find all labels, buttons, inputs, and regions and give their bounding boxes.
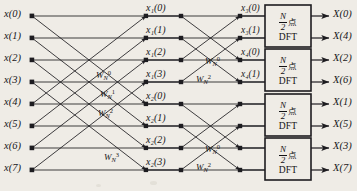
scan-speck bbox=[150, 181, 157, 185]
dft-block-3-fraction: N 2 bbox=[279, 145, 287, 165]
output-label-7: X(7) bbox=[333, 163, 352, 174]
input-label-6: x(6) bbox=[4, 141, 21, 152]
scan-speck bbox=[96, 184, 101, 187]
input-label-0: x(0) bbox=[4, 9, 21, 20]
input-label-7: x(7) bbox=[4, 163, 21, 174]
dft-block-0-fraction: N 2 bbox=[279, 12, 287, 32]
output-label-6: X(3) bbox=[333, 141, 352, 152]
input-label-1: x(1) bbox=[4, 31, 21, 42]
input-label-2: x(2) bbox=[4, 53, 21, 64]
input-label-4: x(4) bbox=[4, 97, 21, 108]
dft-block-2-text: N 2 点 DFT bbox=[265, 101, 311, 132]
dft-block-1-fraction: N 2 bbox=[279, 56, 287, 76]
input-label-3: x(3) bbox=[4, 75, 21, 86]
twiddle-stage1-3: WN3 bbox=[104, 152, 119, 163]
twiddle-stage1-0: WN0 bbox=[96, 70, 111, 81]
stage1-label-2: x₁(2) bbox=[146, 47, 166, 57]
stage2-label-3: x₄(1) bbox=[241, 70, 260, 80]
twiddle-stage2-3: WN2 bbox=[196, 162, 211, 173]
dft-block-3-text: N 2 点 DFT bbox=[265, 145, 311, 176]
stage1-label-1: x₁(1) bbox=[146, 25, 166, 35]
output-label-0: X(0) bbox=[333, 9, 352, 20]
twiddle-stage2-1: WN2 bbox=[196, 74, 211, 85]
stage2-label-2: x₄(0) bbox=[241, 48, 260, 58]
output-label-2: X(2) bbox=[333, 53, 352, 64]
stage1-label-7: x₂(3) bbox=[146, 157, 166, 167]
dft-block-0-text: N 2 点 DFT bbox=[265, 12, 311, 43]
twiddle-stage2-2: WN0 bbox=[205, 144, 220, 155]
stage2-label-0: x₃(0) bbox=[241, 4, 260, 14]
output-label-1: X(4) bbox=[333, 31, 352, 42]
stage1-label-5: x₂(1) bbox=[146, 113, 166, 123]
stage2-label-1: x₃(1) bbox=[241, 26, 260, 36]
output-label-4: X(1) bbox=[333, 97, 352, 108]
output-label-3: X(6) bbox=[333, 75, 352, 86]
dft-block-1-text: N 2 点 DFT bbox=[265, 56, 311, 87]
dft-block-2-fraction: N 2 bbox=[279, 101, 287, 121]
stage1-label-4: x₂(0) bbox=[146, 91, 166, 101]
stage1-edges bbox=[32, 16, 146, 170]
output-label-5: X(5) bbox=[333, 119, 352, 130]
output-arrows bbox=[311, 16, 329, 170]
input-label-5: x(5) bbox=[4, 119, 21, 130]
dft-input-leads bbox=[240, 16, 265, 170]
stage1-label-0: x₁(0) bbox=[146, 3, 166, 13]
stage1-label-3: x₁(3) bbox=[146, 69, 166, 79]
stage1-label-6: x₂(2) bbox=[146, 135, 166, 145]
twiddle-stage2-0: WN0 bbox=[205, 56, 220, 67]
twiddle-stage1-2: WN2 bbox=[98, 108, 113, 119]
twiddle-stage1-1: WN1 bbox=[100, 89, 115, 100]
